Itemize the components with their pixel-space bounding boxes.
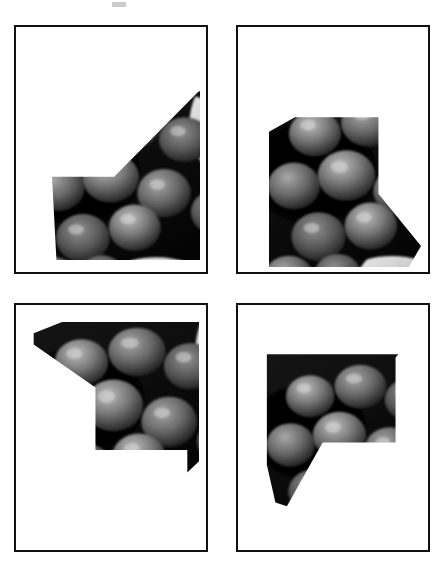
panel-top-left xyxy=(14,25,208,274)
panel-bottom-left xyxy=(14,303,208,552)
panel-bottom-right-canvas xyxy=(238,305,428,550)
panel-top-left-photo-fragment xyxy=(52,90,200,260)
panel-top-right xyxy=(236,25,430,274)
panel-bottom-left-canvas xyxy=(16,305,206,550)
panel-top-left-canvas xyxy=(16,27,206,272)
panel-top-right-canvas xyxy=(238,27,428,272)
scan-speck-artifact xyxy=(112,2,126,7)
panel-bottom-right-photo-fragment xyxy=(264,324,407,512)
sheet-canvas xyxy=(0,0,432,564)
panel-bottom-right xyxy=(236,303,430,552)
panel-bottom-left-photo-fragment xyxy=(32,322,199,482)
panel-top-right-photo-fragment xyxy=(269,109,421,272)
